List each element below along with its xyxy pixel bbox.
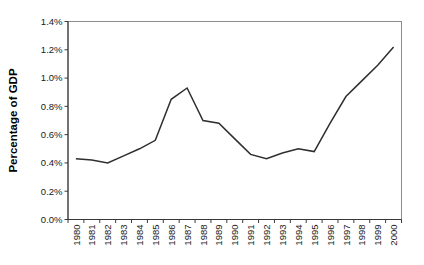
x-tick-label: 1982 xyxy=(102,225,113,246)
x-tick-label: 1984 xyxy=(134,225,145,246)
chart-canvas: 0.0%0.2%0.4%0.6%0.8%1.0%1.2%1.4%19801981… xyxy=(0,0,424,265)
x-tick-label: 1999 xyxy=(372,225,383,246)
gdp-percentage-line-chart: 0.0%0.2%0.4%0.6%0.8%1.0%1.2%1.4%19801981… xyxy=(0,0,424,265)
y-tick-label: 1.2% xyxy=(41,44,63,55)
x-tick-label: 1985 xyxy=(150,225,161,246)
plot-border xyxy=(68,22,402,220)
x-tick-label: 1994 xyxy=(293,225,304,246)
y-tick-label: 0.4% xyxy=(41,157,63,168)
x-tick-label: 1980 xyxy=(71,225,82,246)
x-tick-label: 1991 xyxy=(245,225,256,246)
x-tick-label: 1995 xyxy=(309,225,320,246)
x-tick-label: 1992 xyxy=(261,225,272,246)
x-tick-label: 2000 xyxy=(388,225,399,246)
y-tick-label: 0.0% xyxy=(41,214,63,225)
y-tick-label: 0.2% xyxy=(41,186,63,197)
x-tick-label: 1983 xyxy=(118,225,129,246)
x-tick-label: 1996 xyxy=(325,225,336,246)
x-tick-label: 1988 xyxy=(198,225,209,246)
x-tick-label: 1987 xyxy=(182,225,193,246)
x-tick-label: 1993 xyxy=(277,225,288,246)
x-tick-label: 1986 xyxy=(166,225,177,246)
plot-area: 0.0%0.2%0.4%0.6%0.8%1.0%1.2%1.4%19801981… xyxy=(41,16,402,246)
y-tick-label: 0.8% xyxy=(41,101,63,112)
x-tick-label: 1997 xyxy=(341,225,352,246)
y-tick-label: 1.4% xyxy=(41,16,63,27)
y-tick-label: 1.0% xyxy=(41,72,63,83)
x-tick-label: 1989 xyxy=(213,225,224,246)
x-tick-label: 1998 xyxy=(356,225,367,246)
y-axis-title: Percentage of GDP xyxy=(7,68,19,172)
x-tick-label: 1981 xyxy=(86,225,97,246)
data-series-line xyxy=(76,47,394,163)
y-tick-label: 0.6% xyxy=(41,129,63,140)
x-tick-label: 1990 xyxy=(229,225,240,246)
